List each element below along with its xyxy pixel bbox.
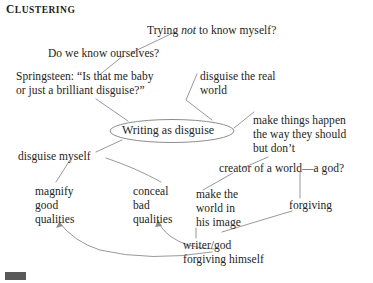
node-conceal-line2: bad bbox=[133, 199, 150, 212]
page-title-initial: C bbox=[6, 3, 15, 15]
center-node-label: Writing as disguise bbox=[122, 123, 214, 137]
node-make-world-line1: make the bbox=[196, 188, 238, 201]
node-make-things-line3: but don’t bbox=[253, 142, 295, 155]
node-do-we-know: Do we know ourselves? bbox=[48, 47, 159, 60]
node-writer-god-line2: forgiving himself bbox=[183, 253, 264, 266]
node-disguise-real-line1: disguise the real bbox=[200, 70, 276, 83]
node-springsteen-line2: or just a brilliant disguise?” bbox=[16, 84, 145, 97]
node-trying-not-pre: Trying bbox=[147, 24, 181, 36]
node-trying-not: Trying not to know myself? bbox=[147, 24, 276, 37]
node-disguise-myself: disguise myself bbox=[18, 150, 91, 163]
clustering-diagram: CLUSTERING bbox=[0, 0, 373, 283]
page-title: CLUSTERING bbox=[6, 3, 75, 15]
node-forgiving: forgiving bbox=[289, 199, 332, 212]
node-make-world-line3: his image bbox=[196, 216, 241, 229]
node-make-things-line2: the way they should bbox=[253, 128, 346, 141]
page-edge-mark bbox=[5, 272, 26, 280]
edge-center-to-makethings bbox=[234, 112, 254, 128]
page-title-rest: LUSTERING bbox=[15, 5, 75, 15]
node-disguise-real-line2: world bbox=[200, 84, 227, 97]
edge-disguisemyself-to-conceal bbox=[106, 158, 161, 182]
edge-springsteen-to-center bbox=[96, 99, 128, 121]
node-make-things-line1: make things happen bbox=[253, 114, 346, 127]
edge-center-to-disguisemyself bbox=[96, 140, 122, 152]
node-trying-not-italic: not bbox=[181, 24, 196, 36]
node-magnify-line1: magnify bbox=[35, 185, 74, 198]
node-make-world-line2: world in bbox=[196, 202, 235, 215]
node-magnify-line3: qualities bbox=[35, 213, 74, 226]
node-writer-god-line1: writer/god bbox=[183, 239, 231, 252]
node-magnify-line2: good bbox=[35, 199, 58, 212]
node-conceal-line1: conceal bbox=[133, 185, 168, 198]
node-creator: creator of a world—a god? bbox=[219, 162, 344, 175]
edge-disguisemyself-to-magnify bbox=[56, 160, 70, 182]
node-trying-not-post: to know myself? bbox=[196, 24, 276, 36]
node-springsteen-line1: Springsteen: “Is that me baby bbox=[16, 70, 154, 83]
node-conceal-line3: qualities bbox=[133, 213, 172, 226]
